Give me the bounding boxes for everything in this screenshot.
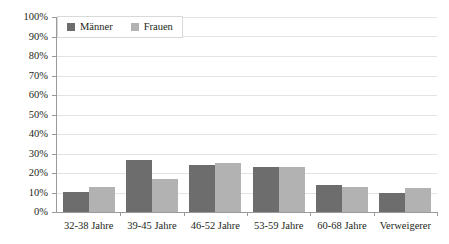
bar — [215, 163, 241, 212]
x-tick-mark — [184, 212, 185, 216]
legend-label: Frauen — [144, 22, 173, 33]
chart-legend: MännerFrauen — [57, 16, 183, 38]
x-tick-label: 46-52 Jahre — [191, 220, 240, 231]
x-tick-label: 60-68 Jahre — [317, 220, 366, 231]
plot-area — [57, 17, 437, 212]
y-tick-label: 10% — [29, 187, 48, 198]
x-tick-label: Verweigerer — [380, 220, 431, 231]
y-tick-label: 40% — [29, 129, 48, 140]
bar — [63, 192, 89, 212]
bar — [405, 188, 431, 212]
y-tick-label: 20% — [29, 168, 48, 179]
y-tick-label: 0% — [34, 207, 48, 218]
bar — [379, 193, 405, 213]
legend-item: Männer — [67, 22, 113, 33]
y-tick-label: 100% — [24, 12, 49, 23]
y-tick-mark — [52, 17, 57, 18]
bar — [89, 187, 115, 212]
bar — [126, 160, 152, 212]
y-tick-mark — [52, 56, 57, 57]
y-tick-mark — [52, 134, 57, 135]
bar — [342, 187, 368, 212]
y-tick-label: 50% — [29, 109, 48, 120]
y-tick-mark — [52, 173, 57, 174]
legend-swatch-icon — [67, 23, 75, 31]
x-tick-mark — [374, 212, 375, 216]
y-tick-label: 80% — [29, 51, 48, 62]
bar — [152, 179, 178, 212]
y-tick-mark — [52, 37, 57, 38]
y-tick-label: 60% — [29, 90, 48, 101]
y-tick-mark — [52, 212, 57, 213]
y-tick-label: 90% — [29, 31, 48, 42]
bar — [279, 167, 305, 212]
x-tick-label: 32-38 Jahre — [64, 220, 113, 231]
y-tick-mark — [52, 115, 57, 116]
y-tick-label: 30% — [29, 148, 48, 159]
y-tick-label: 70% — [29, 70, 48, 81]
y-tick-mark — [52, 76, 57, 77]
x-tick-mark — [247, 212, 248, 216]
bar-chart: 0%10%20%30%40%50%60%70%80%90%100% 32-38 … — [0, 0, 449, 244]
y-tick-mark — [52, 95, 57, 96]
y-axis: 0%10%20%30%40%50%60%70%80%90%100% — [0, 0, 52, 244]
y-tick-mark — [52, 193, 57, 194]
legend-label: Männer — [80, 22, 113, 33]
bar — [253, 167, 279, 212]
bar — [316, 185, 342, 212]
x-tick-mark — [310, 212, 311, 216]
bar — [189, 165, 215, 212]
x-tick-mark — [437, 212, 438, 216]
y-tick-mark — [52, 154, 57, 155]
x-tick-mark — [120, 212, 121, 216]
legend-swatch-icon — [131, 23, 139, 31]
x-tick-label: 53-59 Jahre — [254, 220, 303, 231]
legend-item: Frauen — [131, 22, 173, 33]
bars-layer — [57, 17, 437, 212]
x-tick-label: 39-45 Jahre — [127, 220, 176, 231]
